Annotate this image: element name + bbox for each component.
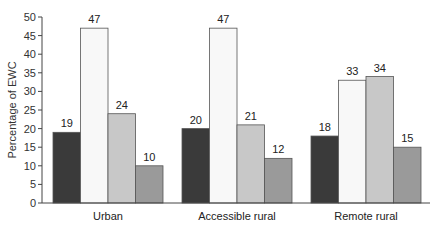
bar-value-label: 34 bbox=[374, 62, 386, 74]
bar bbox=[394, 147, 422, 203]
bar bbox=[108, 114, 136, 203]
y-tick-label: 15 bbox=[24, 141, 36, 153]
bar-chart: 05101520253035404550 1947241020472112183… bbox=[0, 0, 440, 232]
y-tick-label: 10 bbox=[24, 160, 36, 172]
bar-value-label: 15 bbox=[401, 132, 413, 144]
x-axis: UrbanAccessible ruralRemote rural bbox=[42, 203, 430, 222]
y-tick-label: 5 bbox=[30, 178, 36, 190]
y-tick-label: 20 bbox=[24, 123, 36, 135]
bar bbox=[210, 28, 238, 203]
bar-value-label: 47 bbox=[217, 13, 229, 25]
y-tick-label: 35 bbox=[24, 67, 36, 79]
y-tick-label: 40 bbox=[24, 48, 36, 60]
x-category-label: Accessible rural bbox=[198, 210, 276, 222]
bar-value-label: 21 bbox=[245, 110, 257, 122]
bar bbox=[136, 166, 164, 203]
bar-value-label: 20 bbox=[190, 114, 202, 126]
x-category-label: Remote rural bbox=[334, 210, 398, 222]
bar bbox=[182, 129, 210, 203]
bar bbox=[311, 136, 339, 203]
bar-value-label: 10 bbox=[143, 151, 155, 163]
bar-value-label: 47 bbox=[88, 13, 100, 25]
bar bbox=[53, 132, 81, 203]
bar bbox=[237, 125, 265, 203]
y-axis-title: Percentage of EWC bbox=[6, 61, 18, 158]
y-axis: 05101520253035404550 bbox=[24, 11, 42, 209]
bar bbox=[339, 80, 367, 203]
bar-value-label: 18 bbox=[319, 121, 331, 133]
y-tick-label: 45 bbox=[24, 30, 36, 42]
bar-group: 18333415 bbox=[311, 62, 421, 203]
bar-groups: 194724102047211218333415 bbox=[53, 13, 421, 203]
y-tick-label: 0 bbox=[30, 197, 36, 209]
bar bbox=[81, 28, 109, 203]
y-tick-label: 25 bbox=[24, 104, 36, 116]
bar-group: 19472410 bbox=[53, 13, 163, 203]
y-tick-label: 30 bbox=[24, 85, 36, 97]
x-category-label: Urban bbox=[93, 210, 123, 222]
y-tick-label: 50 bbox=[24, 11, 36, 23]
bar-value-label: 12 bbox=[272, 143, 284, 155]
bar bbox=[366, 77, 394, 203]
bar bbox=[265, 158, 293, 203]
bar-value-label: 33 bbox=[346, 65, 358, 77]
bar-value-label: 24 bbox=[116, 99, 128, 111]
bar-group: 20472112 bbox=[182, 13, 292, 203]
bar-value-label: 19 bbox=[61, 117, 73, 129]
